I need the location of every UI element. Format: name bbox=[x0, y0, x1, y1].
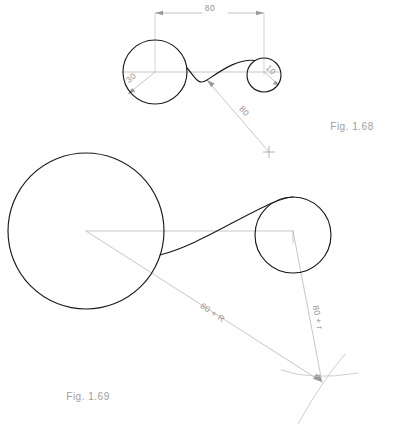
dimension-label-radius-30: 30 bbox=[124, 71, 138, 85]
dimension-label-center-distance: 80 bbox=[205, 3, 215, 13]
drawing-sheet: 80 30 10 80 Fig. 1.68 bbox=[0, 0, 396, 426]
fig168-ogee-curve bbox=[187, 60, 256, 82]
figure-caption-168: Fig. 1.68 bbox=[330, 121, 373, 132]
figure-1-68-group: 80 30 10 80 Fig. 1.68 bbox=[122, 3, 374, 158]
construction-radius-arrow bbox=[207, 80, 215, 87]
construction-radius-line-80 bbox=[207, 80, 269, 152]
construction-swing-arc-2 bbox=[298, 354, 345, 424]
dimension-label-80-plus-r: 80 + r bbox=[311, 305, 325, 331]
figure-1-69-group: 80 + R 80 + r Fig. 1.69 bbox=[8, 153, 358, 424]
dimension-label-construction-80: 80 bbox=[237, 104, 251, 118]
figure-caption-169: Fig. 1.69 bbox=[66, 391, 109, 402]
dimension-label-80-plus-R: 80 + R bbox=[198, 301, 227, 324]
dimension-arrow-right bbox=[256, 11, 264, 15]
arc-center-mark bbox=[263, 146, 275, 158]
fig169-tangent-arc bbox=[160, 197, 293, 255]
dimension-arrow-left bbox=[155, 11, 163, 15]
dimension-label-radius-10: 10 bbox=[264, 63, 278, 77]
technical-drawing-canvas: 80 30 10 80 Fig. 1.68 bbox=[0, 0, 396, 426]
